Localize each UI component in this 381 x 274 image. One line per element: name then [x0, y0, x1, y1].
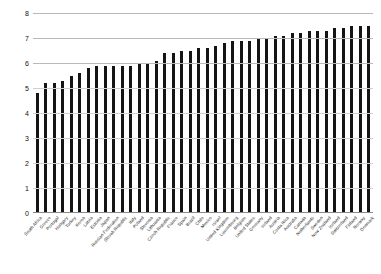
bar[interactable]	[87, 68, 90, 213]
bar[interactable]	[333, 28, 336, 213]
gridline	[33, 113, 373, 114]
y-axis-tick-label: 0	[25, 210, 29, 217]
bar[interactable]	[172, 53, 175, 213]
bar[interactable]	[53, 83, 56, 213]
bar[interactable]	[299, 33, 302, 213]
y-axis-tick-label: 8	[25, 10, 29, 17]
bar[interactable]	[36, 93, 39, 213]
bar[interactable]	[316, 31, 319, 214]
bar[interactable]	[350, 26, 353, 214]
bar[interactable]	[163, 53, 166, 213]
bar[interactable]	[308, 31, 311, 214]
y-axis-tick-label: 3	[25, 135, 29, 142]
bar[interactable]	[325, 31, 328, 214]
bar-chart: 012345678 South AfricaGreecePortugalHung…	[0, 0, 381, 274]
y-axis-tick-label: 1	[25, 185, 29, 192]
bar[interactable]	[155, 61, 158, 214]
y-axis-tick-label: 4	[25, 110, 29, 117]
bar[interactable]	[342, 28, 345, 213]
x-axis-labels: South AfricaGreecePortugalHungaryTurkeyK…	[33, 214, 373, 274]
plot-area: 012345678	[33, 13, 373, 213]
gridline	[33, 38, 373, 39]
bar[interactable]	[265, 38, 268, 213]
gridline	[33, 63, 373, 64]
bar[interactable]	[367, 26, 370, 214]
y-axis-tick-label: 2	[25, 160, 29, 167]
bar[interactable]	[70, 76, 73, 214]
gridline	[33, 163, 373, 164]
bar[interactable]	[78, 73, 81, 213]
bar[interactable]	[257, 38, 260, 213]
gridline	[33, 188, 373, 189]
gridline	[33, 138, 373, 139]
y-axis-tick-label: 7	[25, 35, 29, 42]
gridline	[33, 88, 373, 89]
bar[interactable]	[44, 83, 47, 213]
y-axis-tick-label: 5	[25, 85, 29, 92]
y-axis-tick-label: 6	[25, 60, 29, 67]
bar[interactable]	[291, 33, 294, 213]
gridline	[33, 13, 373, 14]
x-axis-baseline	[33, 212, 373, 213]
bar[interactable]	[61, 81, 64, 214]
bar[interactable]	[359, 26, 362, 214]
